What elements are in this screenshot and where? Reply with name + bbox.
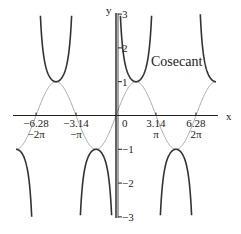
x-tick-sublabel: π [153,128,159,140]
x-tick-sublabel: −π [70,128,82,140]
y-tick-label: 1 [122,76,128,88]
cosecant-branch [16,149,32,216]
x-axis-label: x [226,110,232,122]
cosecant-branch [160,149,191,215]
x-tick-label: 0 [122,117,128,129]
x-ticks: −6.28−2π−3.14−π03.14π6.282π [23,113,206,140]
y-tick-label: −2 [122,177,134,189]
x-tick-sublabel: −2π [27,128,45,140]
y-tick-label: −3 [122,211,134,223]
y-axis-label: y [106,4,112,16]
axes [13,13,218,218]
cosecant-chart: −6.28−2π−3.14−π03.14π6.282π 321−1−2−3 x … [0,0,241,234]
cosecant-branch [80,149,111,215]
y-tick-label: −1 [122,143,134,155]
x-tick-sublabel: 2π [190,128,202,140]
y-tick-label: 2 [122,42,128,54]
cosecant-branch [200,14,216,81]
cosecant-branch [40,16,71,82]
cosecant-annotation: Cosecant [151,54,202,69]
y-tick-label: 3 [122,8,128,20]
